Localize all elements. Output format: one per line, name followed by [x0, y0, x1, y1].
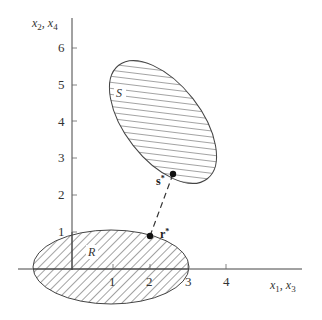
x-tick-1: 1 [109, 274, 116, 289]
region-r [33, 230, 189, 304]
point-r-star [147, 233, 153, 239]
point-s-star-label: s* [156, 174, 165, 188]
point-r-star-label: r* [160, 227, 169, 241]
region-s-label: S [116, 86, 122, 100]
y-tick-1: 1 [58, 224, 65, 239]
x-tick-2: 2 [146, 274, 153, 289]
region-r-label: R [87, 245, 96, 259]
y-axis-label: x2, x4 [31, 16, 58, 32]
y-tick-5: 5 [58, 77, 65, 92]
x-tick-4: 4 [223, 274, 230, 289]
y-tick-6: 6 [58, 40, 65, 55]
y-tick-3: 3 [58, 150, 65, 165]
point-s-star [170, 171, 176, 177]
diagram-canvas: 1 2 3 4 5 6 1 2 3 4 S R s* r* x2, x4 [0, 0, 322, 320]
y-ticks: 1 2 3 4 5 6 [58, 40, 77, 239]
y-tick-2: 2 [58, 187, 65, 202]
x-tick-3: 3 [185, 274, 192, 289]
y-tick-4: 4 [58, 114, 65, 129]
x-axis-label: x1, x3 [269, 278, 296, 294]
